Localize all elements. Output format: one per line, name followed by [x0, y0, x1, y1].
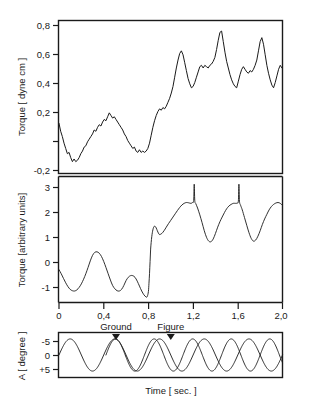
xtick-1: 0,4 — [97, 310, 110, 321]
figure-waveform — [106, 339, 283, 371]
panel-top-ytick-2: 0,4 — [37, 78, 50, 89]
panel-top-ytick-0: 0,8 — [37, 20, 50, 31]
xaxis-ticks — [59, 303, 283, 310]
xtick-3: 1,2 — [187, 310, 200, 321]
panel-middle-ytick-3: 0 — [45, 257, 50, 268]
xtick-2: 0,8 — [142, 310, 155, 321]
panel-middle-yticks — [53, 188, 59, 288]
panel-middle-ytick-2: 1 — [45, 232, 50, 243]
figure-container: 0,8 0,6 0,4 0,2 -0,2 Torque [ dyne cm ] … — [0, 0, 309, 410]
xtick-0: 0 — [56, 310, 61, 321]
ground-waveform — [59, 339, 283, 371]
panel-middle-ylabel: Torque [arbitrary units] — [16, 193, 27, 288]
panel-bottom-ytick-1: 0 — [45, 350, 50, 361]
panel-top-ylabel: Torque [ dyne cm ] — [16, 58, 27, 136]
panel-bottom-yticks — [53, 342, 59, 370]
panel-top-ytick-3: 0,2 — [37, 107, 50, 118]
xaxis-label: Time [ sec. ] — [145, 385, 196, 396]
panel-top-ytick-4: -0,2 — [34, 165, 50, 176]
panel-bottom: -5 0 +5 A [ degree ] Ground Figure — [16, 321, 283, 380]
annotation-figure-arrow-icon — [167, 334, 175, 340]
annotation-figure-label: Figure — [157, 321, 184, 332]
multi-panel-torque-figure: 0,8 0,6 0,4 0,2 -0,2 Torque [ dyne cm ] … — [0, 0, 309, 410]
panel-bottom-ytick-2: +5 — [39, 364, 50, 375]
xtick-5: 2,0 — [274, 310, 287, 321]
panel-top-ytick-1: 0,6 — [37, 49, 50, 60]
panel-bottom-ytick-0: -5 — [42, 336, 50, 347]
panel-middle-trace — [59, 184, 283, 297]
xtick-4: 1,6 — [232, 310, 245, 321]
annotation-ground-label: Ground — [100, 321, 132, 332]
panel-top: 0,8 0,6 0,4 0,2 -0,2 Torque [ dyne cm ] — [16, 20, 283, 176]
panel-bottom-ylabel: A [ degree ] — [16, 332, 27, 381]
panel-middle-ytick-0: 3 — [45, 182, 50, 193]
panel-top-yticks — [53, 26, 59, 171]
panel-middle-ytick-4: -1 — [42, 282, 50, 293]
panel-middle: 3 2 1 0 -1 Torque [arbitrary units] 0 0,… — [16, 177, 288, 322]
panel-top-trace — [59, 31, 282, 162]
panel-middle-ytick-1: 2 — [45, 207, 50, 218]
